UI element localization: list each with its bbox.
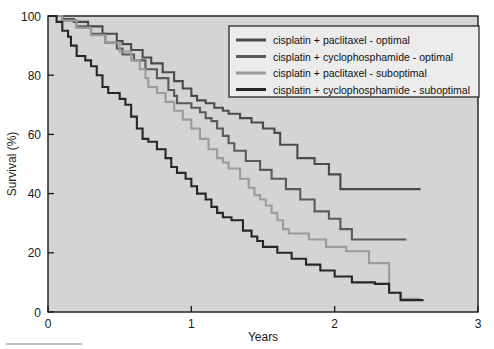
y-tick-label: 60 — [28, 128, 42, 142]
legend-label-3: cisplatin + cyclophosphamide - suboptima… — [273, 84, 470, 96]
y-tick-label: 0 — [34, 306, 41, 320]
y-tick-label: 80 — [28, 69, 42, 83]
legend-label-2: cisplatin + paclitaxel - suboptimal — [273, 67, 427, 79]
legend-label-1: cisplatin + cyclophosphamide - optimal — [273, 51, 453, 63]
y-tick-label: 20 — [28, 246, 42, 260]
x-tick-label: 1 — [188, 317, 195, 331]
y-tick-label: 100 — [21, 10, 41, 24]
x-tick-label: 0 — [45, 317, 52, 331]
survival-chart: 020406080100 0123 Survival (%) Years cis… — [0, 0, 494, 349]
x-axis-title: Years — [248, 330, 278, 344]
figure-container: 020406080100 0123 Survival (%) Years cis… — [0, 0, 494, 349]
y-tick-label: 40 — [28, 187, 42, 201]
x-tick-label: 3 — [475, 317, 482, 331]
y-axis-title: Survival (%) — [5, 132, 19, 197]
legend: cisplatin + paclitaxel - optimalcisplati… — [229, 26, 479, 97]
legend-label-0: cisplatin + paclitaxel - optimal — [273, 34, 410, 46]
x-tick-label: 2 — [331, 317, 338, 331]
